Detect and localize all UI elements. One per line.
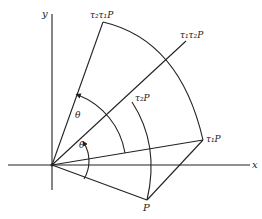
y-axis-label: y	[42, 9, 48, 19]
label-tau2-p: τ₂P	[135, 94, 150, 103]
angle-arc-lower	[84, 143, 89, 179]
diagram-graphics	[0, 0, 262, 219]
ray-to-p	[52, 165, 147, 200]
label-tau2-tau1-p: τ₂τ₁P	[90, 11, 113, 20]
label-angle-lower: θ	[79, 141, 84, 150]
label-p: P	[143, 203, 150, 213]
x-axis-label: x	[252, 160, 258, 170]
ray-to-tau2-tau1-p	[52, 22, 103, 165]
label-tau1-p: τ₁P	[206, 135, 221, 144]
label-tau1-tau2-p: τ₁τ₂P	[180, 31, 203, 40]
segment-p-to-tau1-p	[147, 140, 203, 200]
label-angle-upper: θ	[75, 111, 80, 120]
rotation-diagram: y x τ₂τ₁P τ₁τ₂P τ₂P τ₁P P θ θ	[0, 0, 262, 219]
origin-point	[51, 164, 54, 167]
